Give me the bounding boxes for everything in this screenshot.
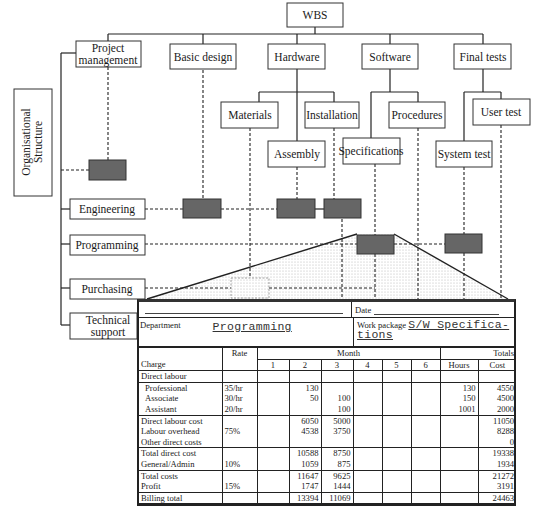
month-2-cell: 4538: [289, 426, 321, 437]
table-row: General/Admin10%10598751934: [139, 459, 516, 470]
work-package-cost-form: Date Department Programming Work package…: [137, 299, 516, 506]
month-2-cell: 1059: [289, 459, 321, 470]
month-3-cell: 9625: [321, 470, 353, 481]
month-4-cell: [353, 492, 382, 504]
month-6-cell: [411, 415, 440, 426]
month-1-cell: [257, 481, 289, 492]
rate-cell: [222, 437, 257, 448]
month-6-cell: [411, 437, 440, 448]
month-1-cell: [257, 492, 289, 504]
work-package-pm[interactable]: [89, 160, 126, 180]
cost-cell: [478, 371, 516, 383]
month-4-cell: [353, 393, 382, 404]
month-1-cell: [257, 470, 289, 481]
cost-cell: 4500: [478, 393, 516, 404]
rate-cell: [222, 448, 257, 459]
month-3-cell: 5000: [321, 415, 353, 426]
charge-cell: Assistant: [139, 404, 222, 415]
charge-cell: Total direct cost: [139, 448, 222, 459]
work-package-purchasing-materials[interactable]: [231, 278, 269, 298]
month-1-cell: [257, 437, 289, 448]
cost-cell: 8288: [478, 426, 516, 437]
date-field[interactable]: [374, 306, 499, 315]
department-label: Department: [140, 320, 181, 330]
month-4-cell: [353, 371, 382, 383]
work-package-prog-system-test[interactable]: [445, 234, 482, 253]
rate-cell: 30/hr: [222, 393, 257, 404]
table-row: Total costs11647962521272: [139, 470, 516, 481]
month-6-cell: [411, 448, 440, 459]
table-header-row-1: Rate Month Totals: [139, 348, 516, 359]
month-3-cell: [321, 382, 353, 393]
month-5-cell: [382, 448, 411, 459]
month-6-cell: [411, 371, 440, 383]
month-1-cell: [257, 448, 289, 459]
month-1-cell: [257, 459, 289, 470]
wbs-software-label: Software: [369, 51, 411, 63]
month-5-cell: [382, 393, 411, 404]
month-4-cell: [353, 437, 382, 448]
table-row: Billing total133941106924463: [139, 492, 516, 504]
hours-cell: [440, 371, 478, 383]
hours-cell: [440, 459, 478, 470]
wbs-final-tests-label: Final tests: [460, 51, 507, 63]
table-row: Assistant20/hr10010012000: [139, 404, 516, 415]
hours-cell: 150: [440, 393, 478, 404]
month-3-cell: 8750: [321, 448, 353, 459]
work-package-eng-assembly[interactable]: [277, 199, 315, 218]
dept-technical-support-label-2: support: [91, 326, 126, 339]
wbs-root-label: WBS: [303, 9, 328, 21]
month-5-cell: [382, 437, 411, 448]
table-row: Profit15%174714443191: [139, 481, 516, 492]
month-6-cell: [411, 481, 440, 492]
month-2-cell: 1747: [289, 481, 321, 492]
cost-cell: 11050: [478, 415, 516, 426]
form-date-row: Date: [139, 302, 514, 318]
cost-cell: 1934: [478, 459, 516, 470]
table-header-row-2: Charge 1 2 3 4 5 6 Hours Cost: [139, 359, 516, 371]
month-4-cell: [353, 426, 382, 437]
month-3-cell: 11069: [321, 492, 353, 504]
month-5-cell: [382, 492, 411, 504]
wbs-procedures-label: Procedures: [391, 109, 443, 121]
work-packages: [89, 160, 482, 254]
month-3-cell: 3750: [321, 426, 353, 437]
month-6-cell: [411, 426, 440, 437]
month-4-cell: [353, 404, 382, 415]
hours-cell: [440, 426, 478, 437]
department-value[interactable]: Programming: [213, 320, 292, 333]
charge-cell: Labour overhead: [139, 426, 222, 437]
month-5-cell: [382, 404, 411, 415]
month-1-cell: [257, 382, 289, 393]
rate-cell: 15%: [222, 481, 257, 492]
month-5-cell: [382, 415, 411, 426]
month-4-cell: [353, 459, 382, 470]
charge-cell: Direct labour cost: [139, 415, 222, 426]
rate-cell: 35/hr: [222, 382, 257, 393]
month-2-cell: 50: [289, 393, 321, 404]
work-package-value[interactable]: S/W Specifica-: [408, 318, 509, 331]
month-2-cell: [289, 371, 321, 383]
work-package-value-2: tions: [357, 328, 393, 341]
work-package-prog-specifications[interactable]: [357, 235, 394, 254]
month-3-cell: 1444: [321, 481, 353, 492]
hours-cell: [440, 437, 478, 448]
work-package-eng-basic-design[interactable]: [183, 199, 221, 218]
month-3-header: 3: [321, 359, 353, 371]
table-row: Labour overhead75%453837508288: [139, 426, 516, 437]
month-2-cell: 10588: [289, 448, 321, 459]
charge-cell: Other direct costs: [139, 437, 222, 448]
cost-cell: 19338: [478, 448, 516, 459]
cost-table: Rate Month Totals Charge 1 2 3 4 5 6 Hou…: [139, 348, 516, 504]
work-package-eng-installation[interactable]: [324, 199, 361, 218]
cost-cell: 3191: [478, 481, 516, 492]
wbs-basic-design-label: Basic design: [174, 51, 233, 64]
wbs-assembly-label: Assembly: [274, 148, 320, 161]
charge-header: Charge: [139, 359, 222, 371]
rate-cell: [222, 470, 257, 481]
hours-cell: [440, 481, 478, 492]
cost-cell: 24463: [478, 492, 516, 504]
charge-cell: Associate: [139, 393, 222, 404]
wbs-installation-label: Installation: [306, 109, 358, 121]
charge-cell: Professional: [139, 382, 222, 393]
